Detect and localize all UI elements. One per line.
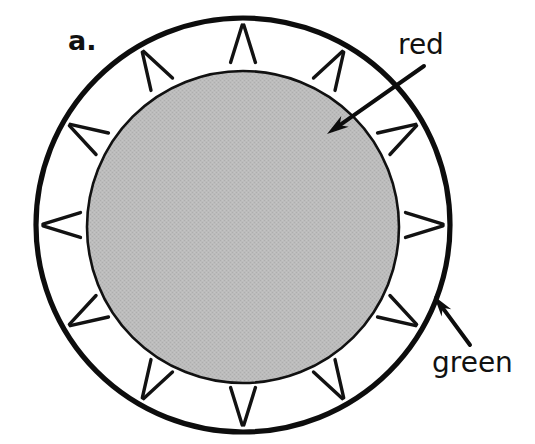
arrow-shaft-green [441,305,470,345]
annotation-label-green: green [432,346,513,379]
annotation-label-red: red [398,28,444,61]
panel-label: a. [68,25,96,56]
ring-diagram [36,18,470,432]
diagram-canvas: a. red green [0,0,535,444]
figure-panel-a: a. red green [0,0,535,444]
